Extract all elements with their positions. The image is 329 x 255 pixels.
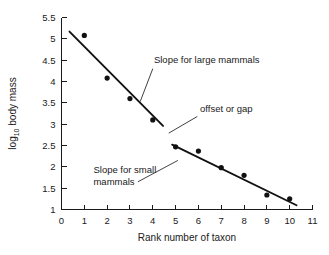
- y-tick-label-3.5: 3.5: [42, 97, 55, 108]
- data-point-small-mammals-9: [264, 192, 269, 197]
- x-tick-label-5: 5: [173, 215, 178, 226]
- x-tick-label-1: 1: [82, 215, 87, 226]
- data-point-large-mammals-4: [150, 117, 155, 122]
- data-point-small-mammals-5: [173, 144, 178, 149]
- y-tick-label-3: 3: [50, 119, 55, 130]
- y-tick-label-2.5: 2.5: [42, 140, 55, 151]
- y-tick-label-4: 4: [50, 76, 55, 87]
- y-tick-label-2: 2: [50, 161, 55, 172]
- data-point-small-mammals-6: [196, 148, 201, 153]
- y-tick-label-4.5: 4.5: [42, 55, 55, 66]
- large-mammals-annotation-text: Slope for large mammals: [154, 54, 260, 65]
- y-tick-label-5.5: 5.5: [42, 12, 55, 23]
- y-tick-label-1: 1: [50, 204, 55, 215]
- x-tick-label-6: 6: [196, 215, 201, 226]
- data-point-large-mammals-1: [82, 33, 87, 38]
- x-tick-label-11: 11: [308, 215, 318, 226]
- offset-gap-annotation-text: offset or gap: [200, 103, 253, 114]
- scatter-plot: 01234567891011 11.522.533.544.555.5 Slop…: [0, 0, 329, 255]
- x-tick-label-2: 2: [104, 215, 109, 226]
- x-tick-label-8: 8: [241, 215, 246, 226]
- x-axis-title: Rank number of taxon: [138, 232, 236, 243]
- data-point-small-mammals-7: [219, 165, 224, 170]
- data-point-large-mammals-3: [127, 96, 132, 101]
- x-tick-label-0: 0: [59, 215, 64, 226]
- x-tick-label-7: 7: [219, 215, 224, 226]
- x-tick-label-9: 9: [264, 215, 269, 226]
- x-tick-label-3: 3: [127, 215, 132, 226]
- x-tick-label-4: 4: [150, 215, 155, 226]
- x-tick-label-10: 10: [284, 215, 295, 226]
- data-point-large-mammals-2: [105, 75, 110, 80]
- y-tick-label-1.5: 1.5: [42, 183, 55, 194]
- data-point-small-mammals-8: [241, 173, 246, 178]
- data-point-small-mammals-10: [287, 196, 292, 201]
- chart-figure: 01234567891011 11.522.533.544.555.5 Slop…: [0, 0, 329, 255]
- y-tick-label-5: 5: [50, 33, 55, 44]
